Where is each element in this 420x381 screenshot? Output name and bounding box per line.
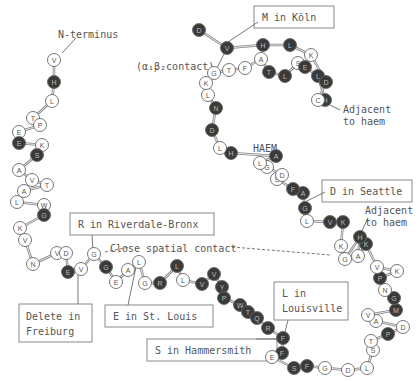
- residue: G: [139, 277, 152, 290]
- residue-letter: A: [356, 253, 361, 260]
- residue: V: [221, 42, 234, 55]
- residue-letter: G: [302, 205, 307, 212]
- residue: T: [41, 179, 54, 192]
- residue-letter: C: [315, 97, 320, 104]
- residue: D: [60, 247, 73, 260]
- residue-letter: F: [281, 335, 285, 342]
- residue: L: [202, 89, 215, 102]
- residue-letter: S: [371, 347, 376, 354]
- residue-letter: A: [22, 188, 27, 195]
- residue: F: [239, 62, 252, 75]
- residue-letter: L: [258, 160, 262, 167]
- residue-letter: G: [342, 256, 347, 263]
- residue-letter: A: [301, 190, 306, 197]
- residue-letter: F: [243, 65, 247, 72]
- residue-letter: D: [63, 250, 68, 257]
- s-hammersmith-label: S in Hammersmith: [155, 345, 251, 356]
- residue-letter: L: [137, 259, 141, 266]
- residue: G: [88, 248, 101, 261]
- residue-letter: F: [305, 363, 309, 370]
- residue-letter: G: [391, 295, 396, 302]
- residue-letter: K: [341, 219, 346, 226]
- residue-letter: P: [222, 295, 227, 302]
- residue: Q: [251, 312, 264, 325]
- residue: P: [382, 328, 395, 341]
- residue-letter: L: [50, 98, 54, 105]
- residue-letter: K: [40, 142, 45, 149]
- residue: L: [214, 142, 227, 155]
- residue-letter: V: [212, 271, 217, 278]
- residue: G: [100, 261, 113, 274]
- residue-letter: K: [18, 225, 23, 232]
- residue: G: [339, 253, 352, 266]
- residue: L: [361, 362, 374, 375]
- adjacent-haem-2-label-a: Adjacent: [365, 205, 413, 216]
- residue: N: [210, 102, 223, 115]
- residue-letter: N: [213, 105, 218, 112]
- close-contact-label: Close spatial contact: [110, 243, 236, 254]
- residue-letter: E: [17, 129, 22, 136]
- residue-letter: L: [181, 277, 185, 284]
- residue: N: [27, 258, 40, 271]
- residue-letter: T: [246, 309, 251, 316]
- residue-letter: H: [228, 150, 233, 157]
- residue-letter: E: [114, 279, 119, 286]
- annotations: N-terminus (α₁β₂contact) M in Köln Adjac…: [19, 6, 413, 361]
- residue: L: [46, 95, 59, 108]
- residue-letter: A: [374, 318, 379, 325]
- residue: V: [19, 234, 32, 247]
- residue: T: [223, 64, 236, 77]
- residue: L: [171, 260, 184, 273]
- residue-letter: G: [142, 280, 147, 287]
- residue-letter: T: [369, 338, 374, 345]
- residue-letter: W: [41, 202, 48, 209]
- residue: S: [31, 149, 44, 162]
- delete-freiburg-label-a: Delete in: [26, 311, 80, 322]
- residue: A: [255, 53, 268, 66]
- residue-letter: E: [270, 354, 275, 361]
- protein-diagram: N-terminus (α₁β₂contact) M in Köln Adjac…: [0, 0, 420, 381]
- residue-letter: D: [209, 127, 214, 134]
- residue-letter: K: [339, 243, 344, 250]
- residue: P: [34, 119, 47, 132]
- residue-letter: V: [79, 266, 84, 273]
- residue-letter: V: [30, 177, 35, 184]
- residue: R: [154, 277, 167, 290]
- residue-letter: G: [322, 365, 327, 372]
- residue: K: [391, 265, 404, 278]
- residue: V: [196, 278, 209, 291]
- residue: H: [354, 231, 367, 244]
- residue-letter: F: [291, 186, 295, 193]
- r-riverdale-label: R in Riverdale-Bronx: [78, 219, 198, 230]
- residue-letter: P: [386, 331, 391, 338]
- residue: G: [38, 209, 51, 222]
- residue-letter: K: [204, 80, 209, 87]
- residue: V: [324, 216, 337, 229]
- l-louisville-label-b: Louisville: [282, 303, 342, 314]
- residue: F: [301, 360, 314, 373]
- residue-letter: L: [365, 365, 369, 372]
- residue-letter: S: [292, 365, 297, 372]
- residue-letter: D: [345, 367, 350, 374]
- residue-letter: L: [15, 199, 19, 206]
- residue-letter: L: [175, 263, 179, 270]
- residue-letter: D: [323, 79, 328, 86]
- e-st-louis-label: E in St. Louis: [113, 311, 197, 322]
- close-contact-line-right: [232, 247, 330, 255]
- residue: K: [14, 222, 27, 235]
- residue-letter: G: [211, 70, 216, 77]
- residue: F: [277, 332, 290, 345]
- l-louisville-label-a: L in: [282, 288, 306, 299]
- residue: L: [279, 70, 292, 83]
- residue: D: [342, 364, 355, 377]
- residue-letter: V: [328, 219, 333, 226]
- residue: L: [284, 39, 297, 52]
- residue: H: [48, 76, 61, 89]
- residue: V: [26, 174, 39, 187]
- residue: L: [301, 215, 314, 228]
- residue-letter: H: [357, 234, 362, 241]
- residue-letter: A: [259, 56, 264, 63]
- residue: C: [312, 94, 325, 107]
- residue-letter: S: [35, 152, 40, 159]
- m-koln-pointer: [228, 22, 258, 42]
